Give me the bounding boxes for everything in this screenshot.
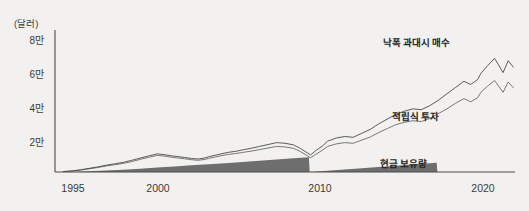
line-buy-the-dip (64, 58, 514, 171)
series-label-buy-the-dip: 낙폭 과대시 매수 (383, 35, 449, 49)
series-label-cash-holdings: 현금 보유량 (380, 156, 426, 170)
series-label-dollar-cost-averaging: 적립식 투자 (392, 109, 438, 123)
chart-plot-area (0, 0, 529, 211)
chart-container: (달러) 8만 6만 4만 2만 1995 2000 2010 2020 낙폭 … (0, 0, 529, 211)
